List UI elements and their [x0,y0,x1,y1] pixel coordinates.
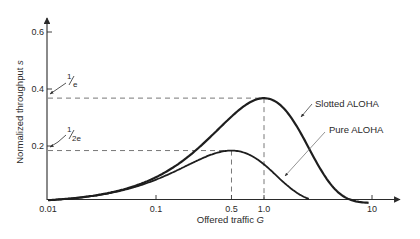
x-axis-title: Offered traffic G [197,214,264,225]
x-tick-label: 10 [367,204,377,214]
one-over-2e-numerator: 1 [67,125,72,134]
x-tick-label: 1.0 [258,204,271,214]
y-axis-ticks: 0.20.40.6 [31,27,52,151]
pure-aloha-label: Pure ALOHA [329,124,384,135]
reference-dashed-lines [48,98,264,199]
one-over-2e-arrow [50,135,66,147]
one-over-e-annotation: 1 e [50,72,78,94]
one-over-e-numerator: 1 [67,72,72,81]
aloha-throughput-chart: 0.20.40.6 0.010.10.51.010 Slotted ALOHA … [0,0,420,239]
x-tick-label: 0.5 [225,204,238,214]
x-axis-ticks: 0.010.10.51.010 [39,195,377,214]
slotted-aloha-leader-arrow [301,104,312,117]
slotted-aloha-label: Slotted ALOHA [315,98,380,109]
x-tick-label: 0.01 [39,204,57,214]
y-axis-title: Normalized throughput s [14,60,25,164]
one-over-2e-annotation: 1 2e [50,125,81,147]
one-over-2e-denominator: 2e [72,134,81,143]
y-tick-label: 0.2 [31,141,44,151]
x-tick-label: 0.1 [150,204,163,214]
one-over-e-arrow [50,83,66,94]
one-over-e-denominator: e [73,80,78,89]
slotted-aloha-label-group: Slotted ALOHA [301,98,380,117]
y-tick-label: 0.6 [31,27,44,37]
y-tick-label: 0.4 [31,84,44,94]
pure-aloha-curve [48,151,309,201]
